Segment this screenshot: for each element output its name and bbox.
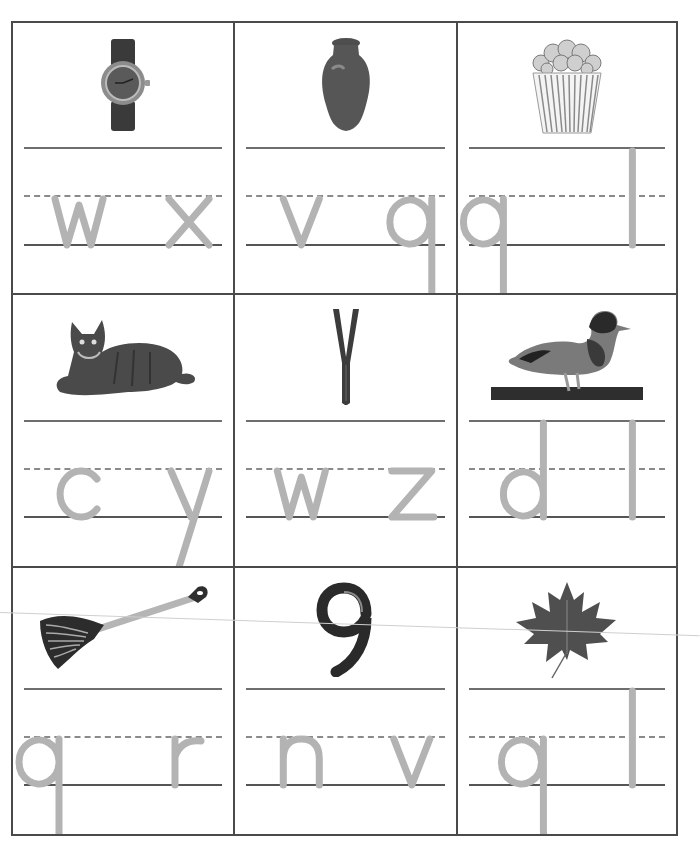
dashed-midline [246,468,445,470]
letter-choice-r[interactable]: r [175,739,201,785]
watch-icon [13,27,233,142]
letter-choice-p[interactable]: p [463,199,503,293]
number-nine-icon [235,572,456,687]
worksheet-cell-watch: wx [13,23,233,293]
top-writing-line [24,688,222,690]
worksheet-cell-leaf: ql [458,568,676,834]
cat-icon [13,299,233,414]
rake-icon [13,572,233,687]
baseline [246,516,445,518]
top-writing-line [246,688,445,690]
popcorn-icon [458,27,676,142]
top-writing-line [469,688,665,690]
vase-icon [235,27,456,142]
letter-choice-v[interactable]: v [394,739,430,785]
dashed-midline [246,195,445,197]
top-writing-line [246,420,445,422]
baseline [24,784,222,786]
letter-choice-q[interactable]: q [390,199,444,293]
letter-choice-q[interactable]: q [501,739,555,834]
baseline [469,784,665,786]
dashed-midline [24,195,222,197]
dashed-midline [469,468,665,470]
dashed-midline [246,736,445,738]
letter-choice-d[interactable]: d [503,423,543,517]
letter-choice-w[interactable]: w [277,471,325,517]
worksheet-cell-popcorn: pl [458,23,676,293]
worksheet-cell-rake: pr [13,568,233,834]
top-writing-line [469,420,665,422]
dashed-midline [469,736,665,738]
top-writing-line [24,420,222,422]
baseline [469,516,665,518]
top-writing-line [469,147,665,149]
baseline [246,784,445,786]
baseline [469,244,665,246]
letter-choice-w[interactable]: w [55,199,103,245]
leaf-icon [458,572,676,687]
zipper-icon [235,299,456,414]
worksheet-cell-cat: cy [13,295,233,566]
baseline [24,516,222,518]
letter-choice-y[interactable]: y [171,471,209,566]
worksheet-cell-nine: nv [235,568,456,834]
dashed-midline [24,468,222,470]
dashed-midline [24,736,222,738]
worksheet-cell-duck: dl [458,295,676,566]
worksheet-cell-zipper: wz [235,295,456,566]
duck-icon [458,299,676,414]
letter-choice-n[interactable]: n [283,739,319,785]
baseline [246,244,445,246]
dashed-midline [469,195,665,197]
top-writing-line [24,147,222,149]
letter-choice-x[interactable]: x [169,199,209,245]
letter-choice-v[interactable]: v [283,199,319,245]
letter-choice-c[interactable]: c [60,471,97,517]
letter-choice-p[interactable]: p [19,739,59,834]
baseline [24,244,222,246]
worksheet-cell-vase: vq [235,23,456,293]
top-writing-line [246,147,445,149]
letter-choice-z[interactable]: z [392,471,434,517]
worksheet-grid: wx vq pl cy wz [11,21,678,836]
